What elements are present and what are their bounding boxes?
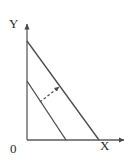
x-axis-label: X [100, 139, 109, 152]
figure-container: Y X 0 [0, 0, 135, 164]
outer-constraint-line [27, 41, 99, 140]
diagram-canvas [0, 0, 135, 164]
outward-shift-arrow [40, 87, 59, 102]
y-axis-label: Y [9, 17, 18, 30]
inner-constraint-line [27, 81, 66, 140]
origin-label: 0 [10, 142, 17, 155]
